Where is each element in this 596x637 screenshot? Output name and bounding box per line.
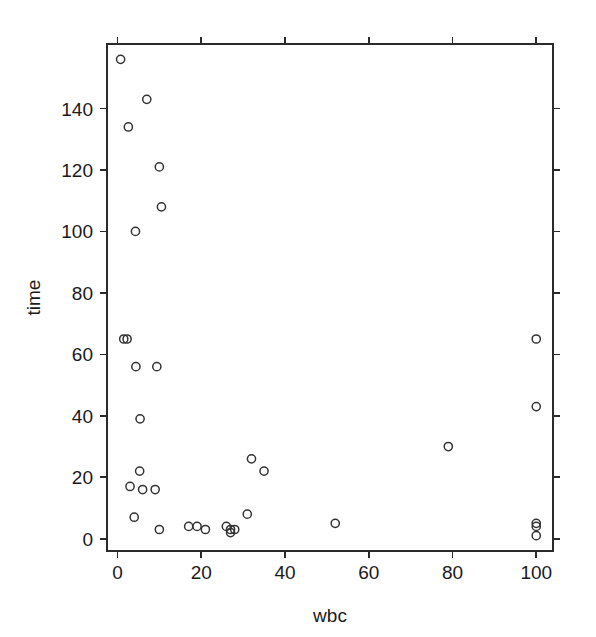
data-point [201,525,209,533]
data-point [131,227,139,235]
y-axis-ticks: 020406080100120140 [61,99,560,550]
chart-canvas: 020406080100 020406080100120140 wbc time [0,0,596,637]
y-tick-label: 20 [72,467,93,488]
y-tick-label: 100 [61,221,93,242]
data-point [157,203,165,211]
data-point [243,510,251,518]
y-axis-label: time [23,280,44,316]
data-point [136,467,144,475]
data-points-layer [117,55,541,539]
data-point [153,363,161,371]
data-point [155,525,163,533]
x-tick-label: 0 [112,562,123,583]
x-tick-label: 20 [191,562,212,583]
data-point [185,522,193,530]
data-point [130,513,138,521]
data-point [132,363,140,371]
data-point [126,482,134,490]
y-tick-label: 0 [82,529,93,550]
data-point [532,402,540,410]
x-tick-label: 60 [358,562,379,583]
x-axis-label: wbc [312,605,347,626]
y-tick-label: 140 [61,99,93,120]
x-tick-label: 100 [520,562,552,583]
data-point [136,415,144,423]
x-tick-label: 80 [442,562,463,583]
y-tick-label: 80 [72,283,93,304]
data-point [124,123,132,131]
plot-frame [107,44,553,551]
y-tick-label: 40 [72,406,93,427]
x-axis-ticks: 020406080100 [112,37,552,583]
data-point [117,55,125,63]
axis-box [107,44,553,551]
data-point [532,532,540,540]
data-point [444,442,452,450]
data-point [155,163,163,171]
y-tick-label: 120 [61,160,93,181]
data-point [532,335,540,343]
y-tick-label: 60 [72,344,93,365]
data-point [139,485,147,493]
data-point [143,95,151,103]
data-point [331,519,339,527]
data-point [260,467,268,475]
data-point [247,455,255,463]
scatter-plot-figure: 020406080100 020406080100120140 wbc time [0,0,596,637]
data-point [193,522,201,530]
x-tick-label: 40 [274,562,295,583]
data-point [151,485,159,493]
